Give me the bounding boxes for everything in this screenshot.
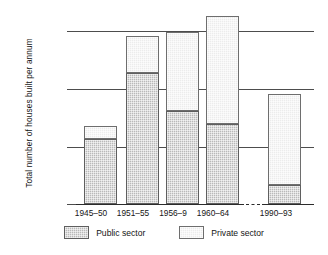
bar-segment-private [126,36,159,73]
x-axis-break [246,204,260,206]
bar-1960-64 [206,16,239,204]
x-axis-line-right [262,204,314,205]
stacked-bar-chart: Total number of houses built per annum 3… [0,0,328,255]
bar-1945-50 [84,126,117,204]
bar-1951-55 [126,36,159,204]
bar-segment-public [206,124,239,204]
bar-segment-private [84,126,117,139]
legend-item-private-sector: Private sector [179,226,264,239]
x-tick-label-1990-93: 1990–93 [244,208,308,218]
legend-item-public-sector: Public sector [64,226,145,239]
tick-stub-100000 [67,147,76,148]
bar-segment-public [84,139,117,204]
bar-1990-93 [268,94,301,204]
bar-segment-private [206,16,239,124]
bar-segment-public [166,111,199,204]
bar-segment-private [268,94,301,185]
chart-legend: Public sector Private sector [0,226,328,239]
bar-segment-public [268,185,301,204]
y-axis-title: Total number of houses built per annum [24,18,34,208]
plot-area: 300 000 200 000 100 000 0 [76,10,314,204]
tick-stub-300000 [67,31,76,32]
legend-label-public-sector: Public sector [96,228,145,238]
bar-1956-9 [166,32,199,204]
x-tick-label-1960-64: 1960–64 [181,208,245,218]
legend-swatch-public-sector [64,226,89,239]
x-axis-line [76,204,244,205]
bar-segment-public [126,73,159,204]
tick-stub-200000 [67,89,76,90]
legend-label-private-sector: Private sector [211,228,264,238]
tick-stub-0 [67,204,76,205]
bar-segment-private [166,32,199,111]
legend-swatch-private-sector [179,226,204,239]
